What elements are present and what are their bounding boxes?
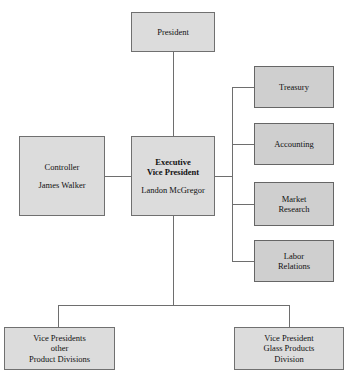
connector-departments-trunk xyxy=(232,87,233,261)
node-accounting-line-1: Accounting xyxy=(274,139,314,149)
organization-chart: President Executive Vice President Lando… xyxy=(0,0,352,381)
connector-bus-to-vps-other xyxy=(58,305,59,327)
node-controller-line-1: Controller xyxy=(45,162,80,172)
connector-trunk-to-accounting xyxy=(232,144,254,145)
connector-evp-downward xyxy=(173,216,174,305)
node-market-research-line-1: Market xyxy=(282,194,307,204)
connector-trunk-to-labor-relations xyxy=(232,261,254,262)
node-market-research[interactable]: Market Research xyxy=(254,182,334,226)
node-president-line-1: President xyxy=(157,27,189,37)
node-treasury-line-1: Treasury xyxy=(279,82,309,92)
node-president[interactable]: President xyxy=(131,12,215,52)
connector-bottom-bus xyxy=(58,305,290,306)
node-vp-glass-line-1: Vice President xyxy=(264,333,313,343)
node-labor-relations[interactable]: Labor Relations xyxy=(254,240,334,282)
node-controller[interactable]: Controller James Walker xyxy=(19,136,105,216)
node-vps-other-line-1: Vice Presidents xyxy=(33,333,86,343)
node-treasury[interactable]: Treasury xyxy=(254,66,334,108)
connector-evp-to-departments-stub xyxy=(215,176,232,177)
node-vp-glass-line-2: Glass Products xyxy=(264,343,315,353)
connector-trunk-to-treasury xyxy=(232,87,254,88)
connector-trunk-to-market-research xyxy=(232,204,254,205)
node-accounting[interactable]: Accounting xyxy=(254,123,334,165)
node-vice-presidents-other-product-divisions[interactable]: Vice Presidents other Product Divisions xyxy=(4,327,115,370)
node-evp-line-2: Vice President xyxy=(147,167,199,177)
node-executive-vice-president[interactable]: Executive Vice President Landon McGregor xyxy=(131,136,215,216)
node-evp-line-1: Executive xyxy=(155,157,190,167)
connector-bus-to-vp-glass xyxy=(289,305,290,327)
node-vps-other-line-2: other xyxy=(51,343,68,353)
node-evp-line-3: Landon McGregor xyxy=(141,185,205,195)
node-vps-other-line-3: Product Divisions xyxy=(29,354,90,364)
connector-controller-to-evp xyxy=(105,176,131,177)
node-vp-glass-line-3: Division xyxy=(274,354,303,364)
node-labor-relations-line-1: Labor xyxy=(284,251,304,261)
node-market-research-line-2: Research xyxy=(278,204,309,214)
node-vice-president-glass-products-division[interactable]: Vice President Glass Products Division xyxy=(234,327,344,370)
node-labor-relations-line-2: Relations xyxy=(278,261,310,271)
connector-president-to-evp xyxy=(173,52,174,136)
node-controller-line-2: James Walker xyxy=(38,180,85,190)
